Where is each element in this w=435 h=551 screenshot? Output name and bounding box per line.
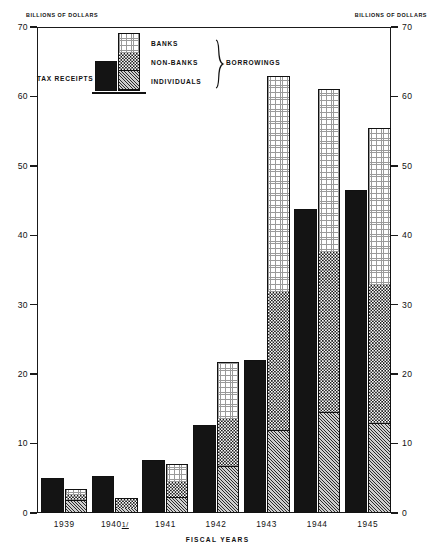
bar-segment-banks-1943 <box>268 77 289 292</box>
legend-brace-icon <box>214 39 225 89</box>
legend-swatches <box>95 33 145 95</box>
bar-segment-individuals-1943 <box>268 431 289 513</box>
bar-tax-receipts-1943 <box>244 360 267 513</box>
bar-segment-individuals-1944 <box>319 413 340 513</box>
y-tick-label-right-40: 40 <box>402 230 424 240</box>
y-tick-label-right-50: 50 <box>402 161 424 171</box>
y-tick-left-40 <box>30 235 37 236</box>
x-axis-title: FISCAL YEARS <box>0 536 435 543</box>
y-tick-label-right-0: 0 <box>402 508 424 518</box>
chart-legend: TAX RECEIPTS BANKS NON-BANKS INDIVIDUALS… <box>95 33 335 107</box>
y-tick-left-0 <box>30 512 37 513</box>
bar-segment-non-banks-1944 <box>319 252 340 414</box>
y-tick-left-60 <box>30 96 37 97</box>
bar-segment-banks-1941 <box>167 465 188 482</box>
legend-label-tax-receipts: TAX RECEIPTS <box>37 75 94 82</box>
bar-borrowings-1939 <box>65 489 88 513</box>
bar-segment-non-banks-1943 <box>268 292 289 431</box>
bar-borrowings-1942 <box>217 362 240 513</box>
bar-borrowings-1941 <box>166 464 189 513</box>
bar-segment-individuals-1945 <box>369 424 390 513</box>
bar-segment-non-banks-1942 <box>218 419 239 468</box>
y-tick-left-20 <box>30 373 37 374</box>
legend-label-banks: BANKS <box>151 40 178 47</box>
y-tick-label-left-10: 10 <box>8 438 28 448</box>
legend-label-non-banks: NON-BANKS <box>151 59 198 66</box>
legend-swatch-borrowings <box>118 33 140 91</box>
legend-swatch-tax-receipts <box>95 61 117 91</box>
y-tick-right-20 <box>391 373 398 374</box>
bar-tax-receipts-1940 <box>92 476 115 513</box>
y-tick-label-left-70: 70 <box>8 22 28 32</box>
y-tick-right-30 <box>391 304 398 305</box>
y-tick-label-right-30: 30 <box>402 300 424 310</box>
bar-segment-individuals-1939 <box>66 501 87 513</box>
y-tick-right-50 <box>391 165 398 166</box>
y-tick-right-60 <box>391 96 398 97</box>
bar-segment-banks-1945 <box>369 129 390 285</box>
y-tick-label-left-20: 20 <box>8 369 28 379</box>
bar-segment-individuals-1942 <box>218 467 239 513</box>
bar-segment-banks-1942 <box>218 363 239 419</box>
y-tick-label-left-0: 0 <box>8 508 28 518</box>
y-tick-label-right-70: 70 <box>402 22 424 32</box>
bar-segment-individuals-1940 <box>116 508 137 513</box>
y-tick-right-0 <box>391 512 398 513</box>
bar-segment-banks-1944 <box>319 90 340 252</box>
y-tick-label-left-50: 50 <box>8 161 28 171</box>
legend-swatch-non-banks <box>119 53 139 72</box>
y-tick-label-left-30: 30 <box>8 300 28 310</box>
y-tick-right-70 <box>391 26 398 27</box>
y-tick-right-40 <box>391 235 398 236</box>
y-tick-left-10 <box>30 443 37 444</box>
y-tick-label-left-40: 40 <box>8 230 28 240</box>
legend-swatch-individuals <box>119 71 139 90</box>
legend-swatch-banks <box>119 34 139 53</box>
bar-borrowings-1943 <box>267 76 290 513</box>
left-axis-caption: BILLIONS OF DOLLARS <box>26 12 98 18</box>
y-tick-label-right-10: 10 <box>402 438 424 448</box>
legend-label-individuals: INDIVIDUALS <box>151 78 201 85</box>
bar-segment-non-banks-1940 <box>116 499 137 507</box>
y-tick-label-right-60: 60 <box>402 91 424 101</box>
bar-segment-non-banks-1941 <box>167 482 188 498</box>
x-axis-label-1945: 1945 <box>328 519 408 529</box>
bar-tax-receipts-1939 <box>41 478 64 513</box>
bar-tax-receipts-1942 <box>193 425 216 513</box>
legend-label-borrowings: BORROWINGS <box>226 59 280 66</box>
y-tick-label-left-60: 60 <box>8 91 28 101</box>
y-tick-label-right-20: 20 <box>402 369 424 379</box>
y-tick-left-50 <box>30 165 37 166</box>
y-tick-left-30 <box>30 304 37 305</box>
bar-tax-receipts-1945 <box>345 190 368 513</box>
bar-borrowings-1940 <box>115 498 138 513</box>
bar-tax-receipts-1941 <box>142 460 165 513</box>
bar-segment-individuals-1941 <box>167 498 188 513</box>
bar-borrowings-1945 <box>368 128 391 513</box>
right-axis-caption: BILLIONS OF DOLLARS <box>355 12 427 18</box>
y-tick-left-70 <box>30 26 37 27</box>
bar-borrowings-1944 <box>318 89 341 513</box>
bar-tax-receipts-1944 <box>294 209 317 513</box>
bar-segment-non-banks-1945 <box>369 285 390 424</box>
y-tick-right-10 <box>391 443 398 444</box>
legend-baseline <box>92 92 146 94</box>
